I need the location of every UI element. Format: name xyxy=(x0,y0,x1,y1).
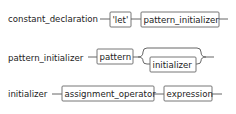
rule-pattern-initializer: pattern_initializer pattern initializer xyxy=(8,48,214,72)
rule-constant-declaration: constant_declaration 'let' pattern_initi… xyxy=(8,12,228,27)
rule-name: initializer xyxy=(8,89,48,99)
rule-name: pattern_initializer xyxy=(8,53,84,63)
railroad-diagram: constant_declaration 'let' pattern_initi… xyxy=(0,0,236,114)
rule-name: constant_declaration xyxy=(8,14,98,24)
nonterminal-expression: expression xyxy=(167,89,213,99)
optional-skip-path xyxy=(133,48,214,57)
optional-enter-path xyxy=(138,57,150,64)
terminal-let: 'let' xyxy=(113,15,129,25)
optional-exit-path xyxy=(196,57,206,64)
nonterminal-assignment-operator: assignment_operator xyxy=(65,89,157,99)
rule-initializer: initializer assignment_operator expressi… xyxy=(8,86,222,101)
nonterminal-pattern: pattern xyxy=(100,52,132,62)
nonterminal-pattern-initializer: pattern_initializer xyxy=(144,15,220,25)
nonterminal-initializer: initializer xyxy=(153,60,193,70)
